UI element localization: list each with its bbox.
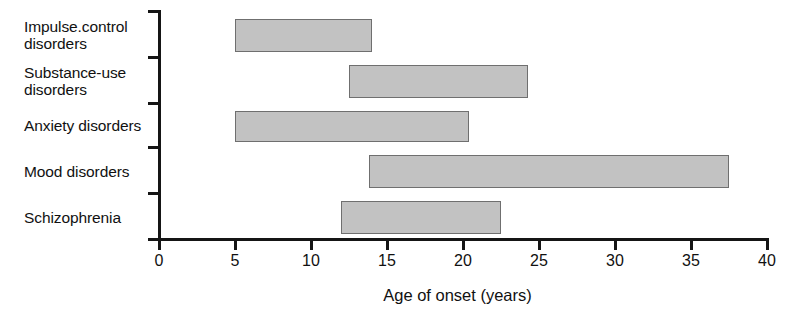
y-axis-tick-3: [148, 146, 159, 149]
x-axis-tick-25: [538, 241, 541, 250]
x-axis-tick-label-0: 0: [139, 251, 179, 270]
x-axis-tick-35: [690, 241, 693, 250]
bar-schizophrenia: [341, 201, 501, 234]
x-axis-title-text: Age of onset (years): [265, 286, 532, 304]
x-axis-tick-label-30: 30: [595, 251, 635, 270]
y-axis-tick-4: [148, 192, 159, 195]
x-axis-tick-30: [614, 241, 617, 250]
y-axis-tick-0: [148, 10, 159, 13]
x-axis-tick-10: [310, 241, 313, 250]
bar-anxiety: [235, 111, 469, 142]
range-bar-chart: Impulse.control disorders Substance-use …: [0, 0, 797, 324]
x-axis-tick-20: [462, 241, 465, 250]
x-axis-tick-label-20: 20: [443, 251, 483, 270]
x-axis-tick-40: [766, 241, 769, 250]
y-axis-line: [158, 10, 161, 241]
x-axis-title: Age of onset (years): [0, 286, 797, 305]
x-axis-tick-label-5: 5: [215, 251, 255, 270]
y-axis-tick-1: [148, 56, 159, 59]
x-axis-tick-label-25: 25: [519, 251, 559, 270]
x-axis-tick-15: [386, 241, 389, 250]
bar-mood: [369, 155, 729, 188]
x-axis-tick-label-10: 10: [291, 251, 331, 270]
y-axis-tick-2: [148, 102, 159, 105]
bar-substance-use: [349, 65, 528, 98]
x-axis-tick-label-40: 40: [747, 251, 787, 270]
x-axis-tick-label-15: 15: [367, 251, 407, 270]
x-axis-tick-label-35: 35: [671, 251, 711, 270]
x-axis-tick-5: [234, 241, 237, 250]
x-axis-tick-0: [158, 241, 161, 250]
bar-impulse-control: [235, 19, 372, 52]
plot-area: 0510152025303540 Age of onset (years): [0, 0, 797, 324]
